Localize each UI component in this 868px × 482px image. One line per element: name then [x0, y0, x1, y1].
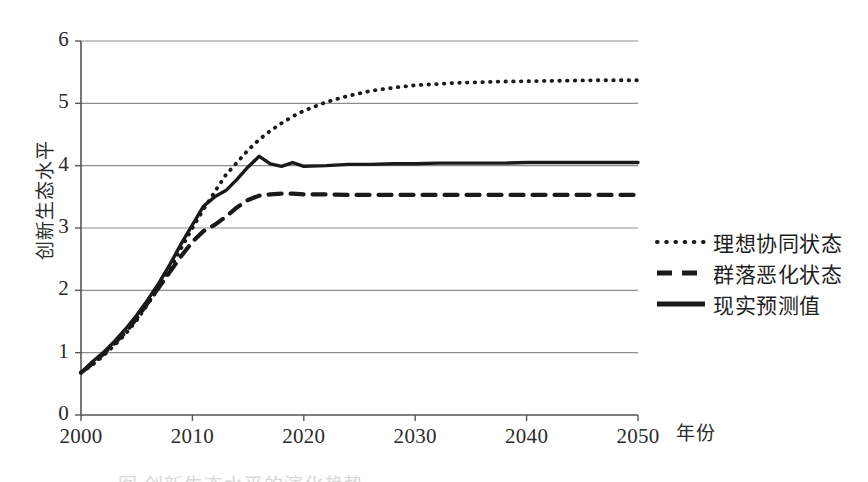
legend-item-ideal[interactable]: 理想协同状态 [655, 226, 867, 257]
dotted-line-marker [655, 233, 707, 251]
dashed-line-marker [655, 264, 707, 282]
legend-label-degraded: 群落恶化状态 [713, 258, 842, 288]
series-line-1 [81, 194, 638, 373]
axis-tick-marks [75, 41, 638, 421]
x-tick-label-2040: 2040 [482, 424, 572, 449]
series-line-0 [81, 80, 638, 372]
series-line-2 [81, 156, 638, 372]
x-tick-label-2050: 2050 [593, 424, 683, 449]
y-tick-label-6: 6 [29, 27, 69, 52]
series-lines [81, 80, 638, 372]
solid-line-marker [655, 295, 707, 313]
x-axis-title: 年份 [676, 418, 716, 445]
figure-caption: 图 创新生态水平的演化趋势 [118, 470, 588, 482]
legend-label-ideal: 理想协同状态 [713, 227, 842, 257]
chart-figure: 0123456 200020102020203020402050 创新生态水平 … [0, 0, 868, 482]
x-tick-label-2000: 2000 [36, 424, 126, 449]
x-tick-label-2020: 2020 [259, 424, 349, 449]
legend-item-forecast[interactable]: 现实预测值 [655, 288, 867, 319]
y-axis-title: 创新生态水平 [30, 105, 57, 295]
y-tick-label-0: 0 [29, 401, 69, 426]
x-tick-label-2010: 2010 [147, 424, 237, 449]
x-tick-label-2030: 2030 [370, 424, 460, 449]
legend-label-forecast: 现实预测值 [713, 289, 821, 319]
chart-legend: 理想协同状态 群落恶化状态 现实预测值 [655, 226, 867, 319]
y-tick-label-1: 1 [29, 339, 69, 364]
legend-item-degraded[interactable]: 群落恶化状态 [655, 257, 867, 288]
